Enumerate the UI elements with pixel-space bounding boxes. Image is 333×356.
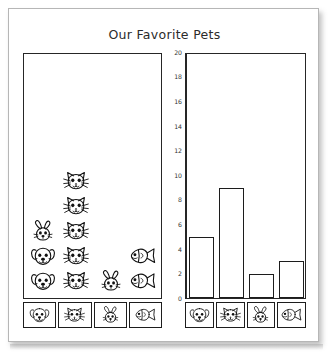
bar-chart-legend	[185, 302, 306, 328]
legend-item-rabbit[interactable]	[247, 302, 276, 328]
cat-icon	[63, 245, 89, 266]
y-tick-label: 0	[178, 296, 182, 302]
rabbit-icon	[100, 306, 121, 323]
y-tick-label: 2	[178, 271, 182, 277]
bar-cat[interactable]	[219, 188, 244, 298]
dog-icon	[28, 268, 58, 294]
y-tick-label: 16	[174, 99, 182, 105]
bar-series	[187, 54, 305, 298]
y-tick-label: 18	[174, 74, 182, 80]
y-axis: 02468101214161820	[164, 49, 184, 303]
legend-item-cat[interactable]	[216, 302, 245, 328]
rabbit-icon	[98, 270, 124, 291]
dog-icon	[189, 306, 210, 323]
cat-icon	[61, 218, 91, 244]
dog-icon	[28, 243, 58, 269]
fish-icon	[130, 245, 156, 266]
fish-icon	[128, 268, 158, 294]
y-tick-label: 12	[174, 148, 182, 154]
rabbit-icon	[250, 306, 271, 323]
fish-icon	[135, 306, 156, 323]
y-tick-label: 20	[174, 50, 182, 56]
fish-icon	[281, 306, 302, 323]
legend-item-cat[interactable]	[58, 302, 91, 328]
dog-icon	[29, 306, 50, 323]
fish-icon	[128, 243, 158, 269]
dog-icon	[30, 270, 56, 291]
cat-icon	[63, 195, 89, 216]
rabbit-icon	[96, 268, 126, 294]
rabbit-icon	[28, 218, 58, 244]
fish-icon	[130, 270, 156, 291]
cat-icon	[63, 170, 89, 191]
legend-item-fish[interactable]	[277, 302, 306, 328]
cat-icon	[220, 306, 241, 323]
bar-fish[interactable]	[279, 261, 304, 298]
bar-rabbit[interactable]	[249, 274, 274, 298]
y-tick-label: 14	[174, 124, 182, 130]
y-tick-label: 4	[178, 247, 182, 253]
page-title: Our Favorite Pets	[9, 27, 320, 42]
cat-icon	[63, 220, 89, 241]
legend-item-rabbit[interactable]	[94, 302, 127, 328]
pictograph-panel	[23, 53, 162, 299]
cat-icon	[63, 270, 89, 291]
cat-icon	[61, 243, 91, 269]
legend-item-dog[interactable]	[185, 302, 214, 328]
legend-item-dog[interactable]	[23, 302, 56, 328]
cat-icon	[61, 168, 91, 194]
cat-icon	[61, 268, 91, 294]
y-tick-label: 8	[178, 197, 182, 203]
cat-icon	[61, 193, 91, 219]
rabbit-icon	[30, 220, 56, 241]
y-tick-label: 6	[178, 222, 182, 228]
paper-shadow	[10, 344, 323, 350]
dog-icon	[30, 245, 56, 266]
pictograph-grid	[24, 54, 161, 298]
y-tick-label: 10	[174, 173, 182, 179]
cat-icon	[64, 306, 85, 323]
worksheet-paper: Our Favorite Pets	[8, 8, 319, 342]
bar-dog[interactable]	[189, 237, 214, 298]
bar-chart-plot-area	[185, 53, 306, 299]
pictograph-legend	[23, 302, 162, 328]
legend-item-fish[interactable]	[129, 302, 162, 328]
